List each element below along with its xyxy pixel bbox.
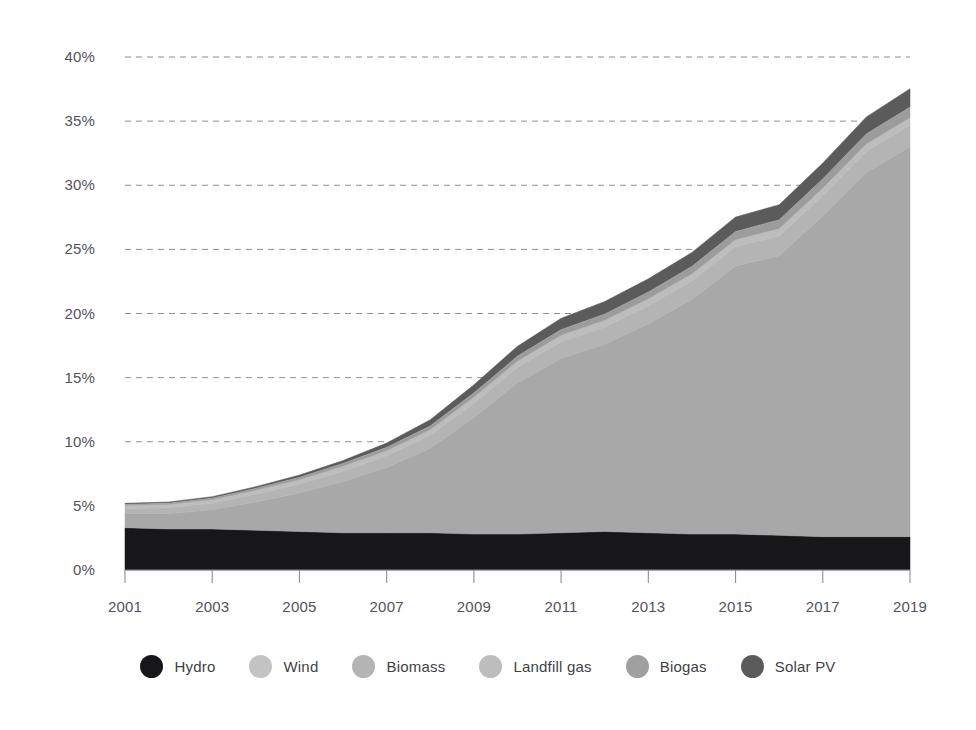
x-axis-tick-label: 2003 [195, 598, 229, 615]
legend-swatch-icon [626, 655, 649, 678]
y-axis-tick-label: 20% [64, 305, 95, 322]
x-axis-tick-label: 2013 [631, 598, 665, 615]
legend-item-biogas[interactable]: Biogas [626, 655, 707, 678]
y-axis-labels: 0%5%10%15%20%25%30%35%40% [64, 48, 95, 578]
y-axis-tick-label: 35% [64, 112, 95, 129]
legend-label: Biogas [660, 658, 707, 675]
legend-item-solar-pv[interactable]: Solar PV [741, 655, 836, 678]
x-axis-labels: 2001200320052007200920112013201520172019 [108, 598, 927, 615]
x-axis-tick-label: 2009 [457, 598, 491, 615]
x-axis-tick-label: 2019 [893, 598, 927, 615]
legend-swatch-icon [479, 655, 502, 678]
y-axis-tick-label: 0% [73, 561, 95, 578]
x-axis-tick-label: 2011 [545, 598, 578, 615]
legend-item-landfill-gas[interactable]: Landfill gas [479, 655, 591, 678]
legend-swatch-icon [352, 655, 375, 678]
legend-item-wind[interactable]: Wind [249, 655, 318, 678]
x-axis-tick-label: 2001 [108, 598, 142, 615]
x-axis-tick-label: 2015 [718, 598, 752, 615]
chart-legend: HydroWindBiomassLandfill gasBiogasSolar … [0, 655, 976, 678]
stacked-area-chart: 0%5%10%15%20%25%30%35%40% 20012003200520… [0, 0, 976, 640]
axis-group [125, 570, 910, 583]
x-axis-tick-label: 2005 [282, 598, 316, 615]
x-axis-tick-label: 2017 [806, 598, 840, 615]
legend-label: Biomass [386, 658, 445, 675]
legend-item-hydro[interactable]: Hydro [140, 655, 215, 678]
y-axis-tick-label: 10% [64, 433, 95, 450]
y-axis-tick-label: 15% [64, 369, 95, 386]
y-axis-tick-label: 40% [64, 48, 95, 65]
chart-container: 0%5%10%15%20%25%30%35%40% 20012003200520… [0, 0, 976, 730]
legend-swatch-icon [741, 655, 764, 678]
legend-label: Solar PV [775, 658, 836, 675]
legend-label: Hydro [174, 658, 215, 675]
legend-swatch-icon [140, 655, 163, 678]
area-series-group [125, 89, 910, 570]
legend-item-biomass[interactable]: Biomass [352, 655, 445, 678]
legend-label: Wind [283, 658, 318, 675]
y-axis-tick-label: 30% [64, 176, 95, 193]
legend-swatch-icon [249, 655, 272, 678]
y-axis-tick-label: 25% [64, 240, 95, 257]
x-axis-tick-label: 2007 [370, 598, 404, 615]
y-axis-tick-label: 5% [73, 497, 95, 514]
legend-label: Landfill gas [513, 658, 591, 675]
